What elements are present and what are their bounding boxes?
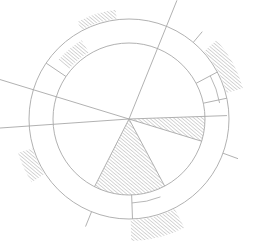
inner-wedge-bottom-hatched-sector [94, 119, 164, 195]
divider-right-2 [203, 98, 226, 103]
tick-right-upper [193, 32, 202, 43]
outer-right-hatched-sector [204, 40, 243, 93]
divider-upper-left [46, 63, 66, 76]
tick-right-lower [223, 153, 238, 158]
ray-upper-left [0, 80, 129, 119]
radial-diagram [0, 0, 259, 247]
outer-bottom-hatched-sector [131, 209, 185, 241]
band-upper-left-hatched-sector [59, 40, 89, 69]
inner-wedge-right-hatched-sector [129, 116, 205, 141]
divider-right-1 [196, 72, 217, 83]
outer-top-hatched-sector [77, 10, 116, 30]
band-arc-right [210, 76, 219, 103]
hatched-sectors [18, 10, 243, 241]
ray-top-right [129, 0, 177, 119]
tick-bottom-left [86, 212, 92, 227]
divider-bottom [132, 195, 133, 219]
band-arc-bottom [132, 197, 161, 203]
ray-left [0, 119, 129, 128]
